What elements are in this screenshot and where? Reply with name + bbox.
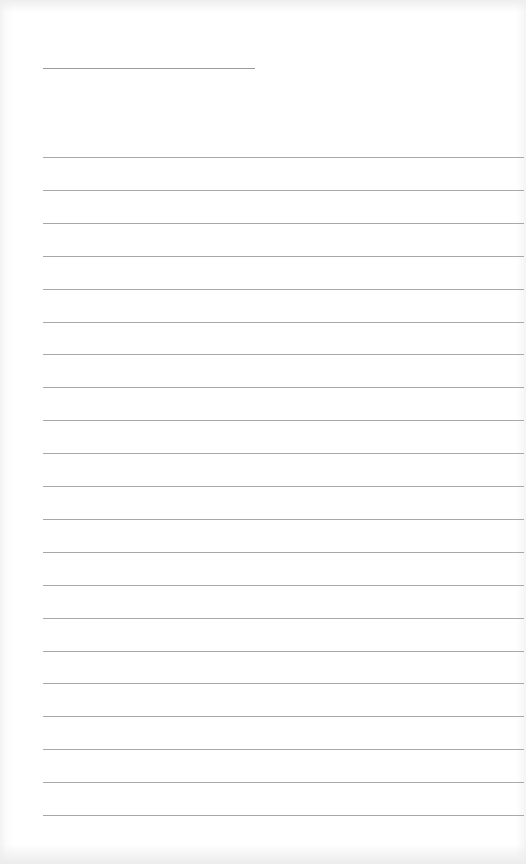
ruled-line (43, 749, 524, 750)
ruled-line (43, 651, 524, 652)
ruled-line (43, 552, 524, 553)
ruled-line (43, 322, 524, 323)
ruled-line (43, 716, 524, 717)
ruled-line (43, 157, 524, 158)
ruled-line (43, 815, 524, 816)
paper-top-edge (0, 0, 526, 12)
ruled-line (43, 190, 524, 191)
lined-paper-page (0, 0, 526, 864)
ruled-line (43, 420, 524, 421)
ruled-line (43, 683, 524, 684)
ruled-line (43, 486, 524, 487)
ruled-line (43, 223, 524, 224)
ruled-line (43, 782, 524, 783)
ruled-line (43, 289, 524, 290)
paper-bottom-edge (0, 844, 526, 864)
ruled-line (43, 354, 524, 355)
ruled-line (43, 618, 524, 619)
ruled-line (43, 519, 524, 520)
ruled-line (43, 585, 524, 586)
ruled-line (43, 453, 524, 454)
ruled-line (43, 387, 524, 388)
ruled-line (43, 256, 524, 257)
header-name-line (43, 68, 255, 69)
